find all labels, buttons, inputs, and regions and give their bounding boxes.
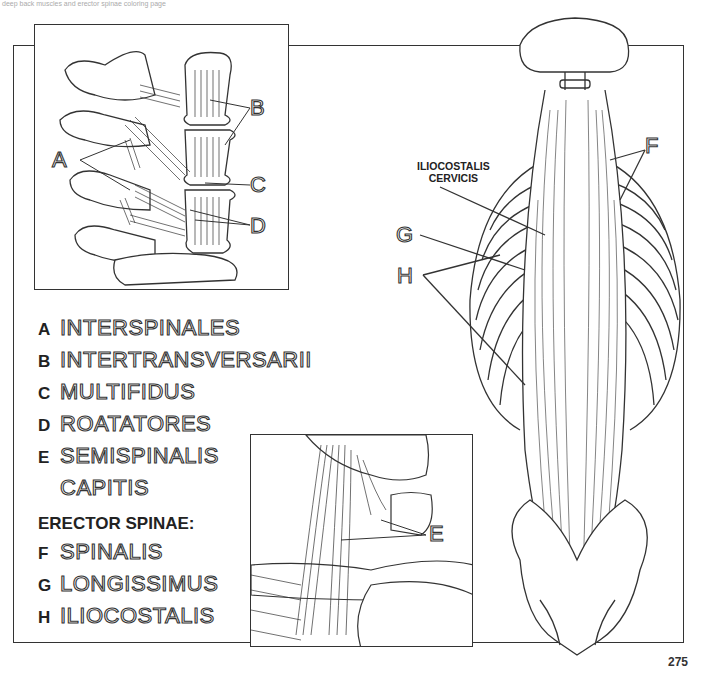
legend-letter: B (38, 352, 60, 372)
callout-d: D (250, 213, 266, 239)
legend-item-g: G LONGISSIMUS (38, 571, 312, 603)
legend-name: ILIOCOSTALIS (60, 603, 215, 629)
muscle-legend: A INTERSPINALES B INTERTRANSVERSARII C M… (38, 315, 312, 635)
legend-name: SEMISPINALIS (60, 443, 219, 469)
callout-b: B (250, 95, 265, 121)
callout-c: C (250, 172, 266, 198)
legend-item-f: F SPINALIS (38, 539, 312, 571)
legend-item-e: E SEMISPINALIS (38, 443, 312, 475)
callout-f: F (645, 133, 659, 159)
vertebrae-inset: B A C D (34, 24, 289, 290)
legend-group-heading: ERECTOR SPINAE: (38, 509, 312, 539)
legend-letter: D (38, 416, 60, 436)
legend-name: CAPITIS (60, 475, 149, 501)
page-number: 275 (668, 655, 688, 669)
legend-item-a: A INTERSPINALES (38, 315, 312, 347)
callout-e: E (429, 521, 444, 547)
legend-name: LONGISSIMUS (60, 571, 218, 597)
legend-item-h: H ILIOCOSTALIS (38, 603, 312, 635)
legend-letter: E (38, 448, 60, 468)
callout-a: A (52, 147, 67, 173)
legend-item-d: D ROATATORES (38, 411, 312, 443)
legend-name: INTERSPINALES (60, 315, 240, 341)
legend-letter: A (38, 320, 60, 340)
legend-name: MULTIFIDUS (60, 379, 195, 405)
vertebrae-illustration (35, 25, 289, 290)
legend-name: INTERTRANSVERSARII (60, 347, 312, 373)
callout-h: H (397, 263, 413, 289)
legend-item-b: B INTERTRANSVERSARII (38, 347, 312, 379)
callout-g: G (396, 222, 414, 248)
annotation-iliocostalis-cervicis: ILIOCOSTALIS CERVICIS (417, 160, 490, 184)
legend-letter: C (38, 384, 60, 404)
legend-letter: H (38, 608, 60, 628)
legend-item-c: C MULTIFIDUS (38, 379, 312, 411)
legend-letter: F (38, 544, 60, 564)
legend-item-e-line2: CAPITIS (38, 475, 312, 507)
legend-letter: G (38, 576, 60, 596)
legend-name: ROATATORES (60, 411, 211, 437)
legend-name: SPINALIS (60, 539, 163, 565)
